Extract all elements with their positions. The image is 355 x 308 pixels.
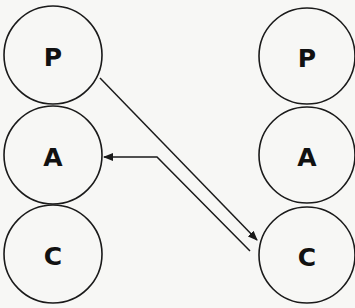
left-parent-label: P [44,43,62,72]
right-parent-state: P [259,8,355,104]
left-parent-state: P [4,6,102,104]
left-person: P A C [4,6,102,303]
right-person: P A C [259,8,355,303]
stimulus-arrow-p-to-c [100,78,257,240]
ta-diagram: P A C P A C [0,0,355,308]
right-child-label: C [298,243,316,272]
response-arrow-c-to-a [104,157,250,251]
left-child-label: C [44,242,62,271]
left-child-state: C [4,205,102,303]
right-child-state: C [259,207,355,303]
left-adult-state: A [4,106,102,204]
right-adult-state: A [259,107,355,203]
left-adult-label: A [43,143,63,172]
right-adult-label: A [297,143,317,172]
right-parent-label: P [298,44,316,73]
